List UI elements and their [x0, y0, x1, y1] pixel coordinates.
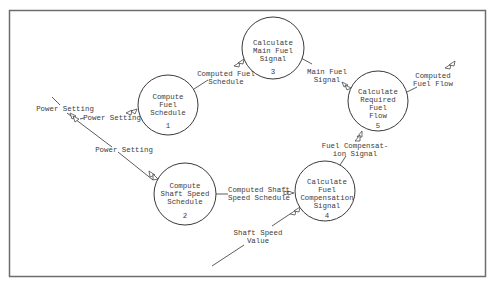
- shaft-speed-value-line-upper: [272, 214, 290, 226]
- process-4-number: 4: [325, 212, 330, 220]
- process-3-label-line-1: Calculate: [253, 39, 293, 47]
- flow-label-shaft-speed-value-line-1: Shaft Speed: [234, 229, 283, 237]
- main-fuel-signal-line: [301, 58, 312, 64]
- process-4-label-line-2: Fuel: [318, 186, 336, 194]
- power-setting-input-line-top: [52, 97, 60, 105]
- process-2-number: 2: [183, 212, 187, 220]
- process-5-label-line-2: Required: [360, 96, 395, 104]
- flow-label-computed-shaft-speed-schedule-line-1: Computed Shaft: [228, 186, 290, 194]
- flow-label-power-setting-in: Power Setting: [36, 105, 94, 113]
- flow-label-shaft-speed-value-line-2: Value: [247, 237, 269, 245]
- process-1-number: 1: [166, 122, 171, 130]
- shaft-speed-value-arrow-icon: [290, 207, 300, 215]
- data-flow-diagram: Compute Fuel Schedule 1 Calculate Main F…: [0, 0, 494, 284]
- process-4-label-line-3: Compensation: [300, 194, 353, 202]
- process-2-label-line-3: Schedule: [167, 198, 202, 206]
- process-5-label-line-1: Calculate: [358, 88, 398, 96]
- flow-label-power-setting-to-2: Power Setting: [95, 146, 153, 154]
- main-fuel-signal-arrow-icon: [342, 82, 351, 90]
- flow-label-computed-fuel-schedule-line-1: Computed Fuel: [197, 70, 255, 78]
- process-5-label-line-4: Flow: [369, 112, 387, 120]
- flow-label-power-setting-to-1: Power Setting: [83, 114, 141, 122]
- process-1[interactable]: Compute Fuel Schedule 1: [138, 75, 198, 135]
- power-setting-to-2-arrow-icon: [149, 171, 158, 180]
- power-setting-to-2-line: [118, 152, 153, 180]
- process-5-label-line-3: Fuel: [369, 104, 387, 112]
- process-2-label-line-1: Compute: [169, 182, 200, 190]
- computed-fuel-schedule-arrow-icon: [234, 59, 244, 67]
- process-5-number: 5: [376, 122, 380, 130]
- process-2-label-line-2: Shaft Speed: [161, 190, 210, 198]
- flow-label-main-fuel-signal-line-2: Signal: [314, 76, 341, 84]
- computed-fuel-flow-arrow-icon: [445, 61, 455, 69]
- process-1-label-line-1: Compute: [152, 93, 183, 101]
- process-1-label-line-3: Schedule: [150, 109, 185, 117]
- process-3-number: 3: [271, 68, 275, 76]
- flow-label-fuel-compensation-signal-line-2: ion Signal: [333, 150, 378, 158]
- process-3-label-line-2: Main Fuel: [253, 47, 293, 55]
- process-3-label-line-3: Signal: [260, 55, 287, 63]
- process-5[interactable]: Calculate Required Fuel Flow 5: [348, 71, 408, 131]
- shaft-speed-value-line: [212, 245, 244, 266]
- flow-label-main-fuel-signal-line-1: Main Fuel: [307, 68, 347, 76]
- flow-label-computed-fuel-flow-line-2: Fuel Flow: [413, 80, 453, 88]
- computed-fuel-schedule-line: [194, 80, 208, 89]
- flow-label-computed-fuel-schedule-line-2: Schedule: [208, 78, 243, 86]
- process-4-label-line-4: Signal: [314, 202, 341, 210]
- process-1-label-line-2: Fuel: [159, 101, 177, 109]
- process-2[interactable]: Compute Shaft Speed Schedule 2: [154, 163, 216, 225]
- flow-label-computed-fuel-flow-line-1: Computed: [415, 72, 450, 80]
- flow-label-computed-shaft-speed-schedule-line-2: Speed Schedule: [228, 194, 290, 202]
- fuel-compensation-signal-arrow-icon: [355, 131, 362, 141]
- flow-label-fuel-compensation-signal-line-1: Fuel Compensat-: [322, 142, 389, 150]
- process-4-label-line-1: Calculate: [307, 178, 347, 186]
- process-4[interactable]: Calculate Fuel Compensation Signal 4: [295, 161, 355, 221]
